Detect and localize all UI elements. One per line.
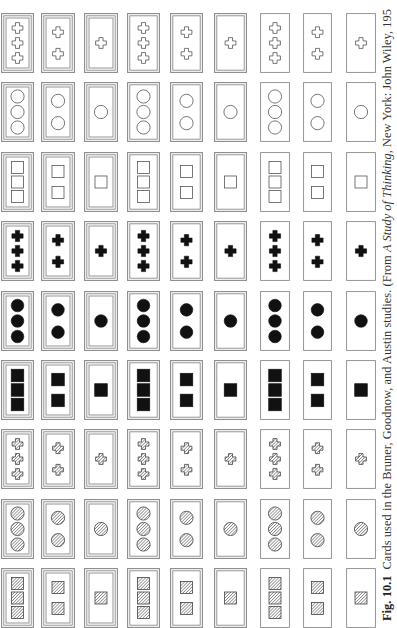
hatched-cross-icon	[12, 469, 23, 480]
hatched-square-icon	[138, 578, 150, 590]
card-face	[346, 291, 376, 351]
card-border	[42, 499, 75, 558]
card	[170, 429, 203, 489]
card-border	[4, 85, 31, 139]
open-cross-icon	[312, 48, 323, 59]
card	[260, 82, 290, 142]
card-face	[303, 360, 332, 420]
open-circle-icon	[180, 117, 193, 130]
hatched-circle-icon	[51, 511, 64, 524]
open-circle-icon	[224, 106, 237, 119]
solid-square-icon	[180, 394, 193, 407]
open-circle-icon	[11, 106, 24, 119]
card-face	[41, 221, 75, 281]
open-square-icon	[181, 186, 193, 198]
card-border	[173, 16, 200, 70]
card	[260, 499, 290, 559]
card-face	[127, 221, 160, 281]
solid-circle-icon	[269, 299, 282, 312]
hatched-square-icon	[269, 607, 281, 619]
card-border	[130, 155, 157, 209]
card-face	[170, 13, 203, 73]
card-border	[44, 432, 72, 486]
solid-cross-icon	[138, 261, 149, 272]
card-face	[346, 13, 376, 73]
card-border	[87, 155, 115, 209]
card	[214, 568, 247, 628]
card	[41, 13, 75, 73]
card-face	[303, 499, 332, 559]
card-border	[4, 16, 31, 70]
card-face	[84, 360, 118, 420]
card-face	[346, 152, 376, 212]
solid-circle-icon	[180, 303, 193, 316]
hatched-circle-icon	[268, 522, 281, 535]
card-face	[1, 568, 34, 628]
solid-cross-icon	[12, 231, 23, 242]
card	[214, 499, 247, 559]
card-border	[85, 83, 118, 142]
open-square-icon	[52, 165, 64, 177]
card-face	[127, 568, 160, 628]
card	[346, 13, 376, 73]
solid-cross-icon	[269, 231, 280, 242]
card-border	[44, 363, 72, 417]
solid-cross-icon	[225, 246, 236, 257]
card	[170, 360, 203, 420]
card	[41, 291, 75, 351]
card-border	[171, 569, 203, 628]
open-circle-icon	[268, 90, 281, 103]
card	[214, 221, 247, 281]
card-face	[127, 152, 160, 212]
card	[260, 360, 290, 420]
card	[84, 360, 118, 420]
card-face	[41, 499, 75, 559]
card-border	[46, 573, 70, 623]
open-circle-icon	[11, 90, 24, 103]
card-face	[346, 568, 376, 628]
card-border	[46, 18, 70, 68]
card-face	[84, 568, 118, 628]
open-cross-icon	[312, 27, 323, 38]
card-border	[89, 87, 113, 137]
solid-square-icon	[52, 373, 65, 386]
card-border	[215, 152, 247, 211]
card	[260, 429, 290, 489]
card-border	[304, 569, 332, 628]
card	[346, 360, 376, 420]
solid-square-icon	[355, 384, 368, 397]
card-face	[170, 152, 203, 212]
card	[1, 152, 34, 212]
card	[214, 82, 247, 142]
solid-cross-icon	[269, 261, 280, 272]
card-border	[42, 430, 75, 489]
card	[41, 152, 75, 212]
hatched-cross-icon	[270, 439, 281, 450]
solid-circle-icon	[95, 314, 108, 327]
solid-circle-icon	[137, 330, 150, 343]
open-cross-icon	[12, 23, 23, 34]
card-face	[127, 82, 160, 142]
card-face	[170, 499, 203, 559]
open-square-icon	[312, 186, 324, 198]
figure-label: Fig. 10.1	[380, 575, 394, 621]
card-border	[42, 152, 75, 211]
card-border	[217, 155, 244, 209]
hatched-square-icon	[312, 603, 324, 615]
card	[346, 499, 376, 559]
card-border	[87, 16, 115, 70]
card-border	[304, 499, 332, 558]
hatched-cross-icon	[356, 454, 367, 465]
card-face	[346, 499, 376, 559]
open-circle-icon	[311, 95, 324, 108]
hatched-circle-icon	[51, 533, 64, 546]
card	[84, 568, 118, 628]
card	[260, 291, 290, 351]
card	[303, 13, 332, 73]
card-face	[260, 152, 290, 212]
hatched-square-icon	[225, 592, 237, 604]
card	[346, 152, 376, 212]
card	[1, 499, 34, 559]
card-face	[260, 82, 290, 142]
card-border	[6, 87, 29, 137]
